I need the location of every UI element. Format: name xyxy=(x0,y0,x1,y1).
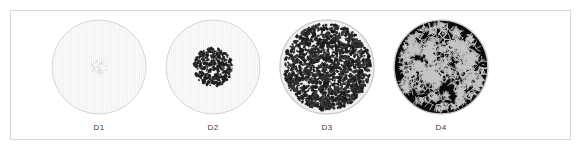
sample-label-d2: D2 xyxy=(163,123,263,132)
figure-panel: D1 D2 D3 D4 xyxy=(0,0,581,151)
sample-label-d3: D3 xyxy=(277,123,377,132)
sample-d2: D2 xyxy=(163,19,263,139)
sample-disc-d4 xyxy=(393,19,489,115)
sample-disc-d3 xyxy=(279,19,375,115)
sample-d4: D4 xyxy=(391,19,491,139)
sample-disc-d2 xyxy=(165,19,261,115)
sample-label-d1: D1 xyxy=(49,123,149,132)
sample-disc-d1 xyxy=(51,19,147,115)
sample-row: D1 D2 D3 D4 xyxy=(11,11,572,141)
sample-d1: D1 xyxy=(49,19,149,139)
porous-disc-image-d1 xyxy=(51,19,147,115)
porous-disc-image-d4 xyxy=(393,19,489,115)
figure-frame-border: D1 D2 D3 D4 xyxy=(10,10,571,140)
porous-disc-image-d2 xyxy=(165,19,261,115)
porous-disc-image-d3 xyxy=(279,19,375,115)
sample-label-d4: D4 xyxy=(391,123,491,132)
sample-d3: D3 xyxy=(277,19,377,139)
